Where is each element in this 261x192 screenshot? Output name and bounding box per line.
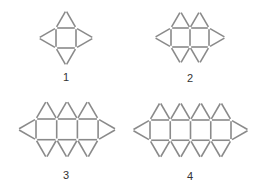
matchstick (78, 102, 87, 118)
figure-3 (19, 102, 115, 156)
matchstick (191, 104, 200, 119)
matchstick (200, 48, 208, 62)
matchstick (211, 104, 220, 119)
matchstick (191, 48, 199, 62)
matchstick (171, 141, 180, 156)
matchstick (57, 102, 66, 118)
matchstick (181, 104, 190, 119)
matchstick (99, 120, 115, 129)
matchstick (191, 141, 200, 156)
matchstick (77, 39, 92, 48)
matchstick (200, 13, 208, 27)
matchstick (232, 131, 247, 140)
matchstick (57, 141, 66, 157)
matchstick (161, 104, 170, 119)
matchstick (67, 49, 76, 64)
matchstick (19, 130, 35, 139)
matchstick (151, 104, 160, 119)
matchstick (134, 131, 149, 140)
figure-label-3: 3 (63, 169, 69, 181)
matchstick (156, 38, 170, 46)
matchstick (172, 13, 180, 27)
matchstick (134, 121, 149, 130)
matchstick (88, 141, 97, 157)
matchstick (37, 141, 46, 157)
matchstick (221, 141, 230, 156)
matchstick (68, 141, 77, 157)
matchstick (156, 29, 170, 37)
matchstick (232, 121, 247, 130)
matchstick (191, 13, 199, 27)
matchstick (77, 29, 92, 38)
matchstick (19, 120, 35, 129)
matchstick (181, 48, 189, 62)
figure-4 (134, 104, 248, 157)
matchstick (40, 39, 55, 48)
matchstick (57, 12, 66, 27)
matchstick (201, 141, 210, 156)
matchstick (68, 102, 77, 118)
matchstick (210, 29, 224, 37)
matchstick (210, 38, 224, 46)
matchstick (37, 102, 46, 118)
figure-label-1: 1 (63, 71, 69, 83)
matchstick (221, 104, 230, 119)
matchstick (78, 141, 87, 157)
matchstick (88, 102, 97, 118)
matchstick (151, 141, 160, 156)
matchstick (40, 29, 55, 38)
matchstick (201, 104, 210, 119)
matchstick (211, 141, 220, 156)
matchstick (161, 141, 170, 156)
matchstick-pattern-diagram (0, 0, 261, 192)
figure-label-2: 2 (187, 72, 193, 84)
matchstick (67, 12, 76, 27)
matchstick (99, 130, 115, 139)
matchstick (47, 141, 56, 157)
matchstick (172, 48, 180, 62)
matchstick (57, 49, 66, 64)
matchstick (171, 104, 180, 119)
matchstick (181, 13, 189, 27)
matchstick (47, 102, 56, 118)
figure-1 (40, 12, 93, 65)
matchstick (181, 141, 190, 156)
figure-label-4: 4 (187, 170, 193, 182)
figure-2 (156, 13, 225, 63)
